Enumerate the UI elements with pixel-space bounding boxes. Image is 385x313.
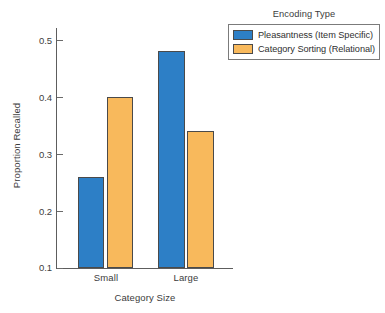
legend-swatch-icon <box>233 30 253 40</box>
legend-entry-label: Pleasantness (Item Specific) <box>258 30 373 40</box>
legend-box: Pleasantness (Item Specific) Category So… <box>228 24 380 60</box>
x-axis-tick-label-small: Small <box>76 272 136 283</box>
y-axis-tick-label: 0.1 <box>28 262 52 273</box>
bar-chart: 0.5 0.4 0.3 0.2 0.1 Small Large Category… <box>0 0 385 313</box>
y-axis-tick-label: 0.5 <box>28 35 52 46</box>
y-axis-tick-label: 0.2 <box>28 206 52 217</box>
legend-title: Encoding Type <box>228 9 380 19</box>
y-axis-tick-label: 0.4 <box>28 92 52 103</box>
x-axis-tick-label-large: Large <box>156 272 216 283</box>
legend: Pleasantness (Item Specific) Category So… <box>228 24 380 60</box>
y-axis-tick-label: 0.3 <box>28 149 52 160</box>
y-axis-title: Proportion Recalled <box>11 86 22 206</box>
bar-large-pleasantness <box>158 51 185 268</box>
legend-entry-category-sorting[interactable]: Category Sorting (Relational) <box>233 42 375 56</box>
x-axis-line <box>57 268 233 269</box>
legend-entry-pleasantness[interactable]: Pleasantness (Item Specific) <box>233 28 375 42</box>
bar-large-category-sorting <box>187 131 214 268</box>
x-axis-title: Category Size <box>0 292 290 303</box>
bar-small-category-sorting <box>107 97 133 268</box>
legend-entry-label: Category Sorting (Relational) <box>258 44 375 54</box>
legend-swatch-icon <box>233 44 253 54</box>
bar-small-pleasantness <box>78 177 104 268</box>
plot-area <box>57 28 236 268</box>
y-axis-tick <box>57 268 63 269</box>
